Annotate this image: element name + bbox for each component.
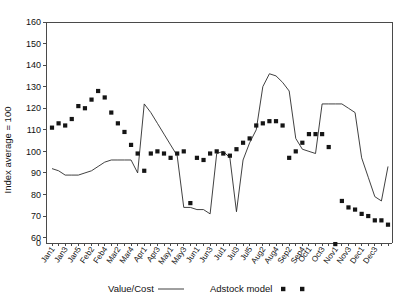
data-marker [221,151,225,155]
data-marker [320,132,324,136]
data-marker [327,145,331,149]
y-axis-tick-label: 150 [26,39,41,49]
legend-label-adstock: Adstock model [210,283,272,294]
data-marker [83,106,87,110]
data-marker [248,136,252,140]
data-marker [280,123,284,127]
data-marker [294,149,298,153]
data-marker [307,132,311,136]
data-marker [215,149,219,153]
data-marker [155,149,159,153]
y-axis-tick-label: 120 [26,103,41,113]
data-marker [234,147,238,151]
data-marker [96,89,100,93]
data-marker [162,151,166,155]
y-axis-title: Index average = 100 [2,107,13,194]
data-marker [208,151,212,155]
y-axis-tick-label: 140 [26,60,41,70]
y-axis-zero-label: 0 [36,238,41,248]
y-axis-tick-label: 70 [31,211,41,221]
data-marker [373,218,377,222]
data-marker [353,207,357,211]
data-marker [313,132,317,136]
chart-series [50,74,390,246]
data-marker [175,151,179,155]
data-marker [333,242,337,246]
data-marker [254,123,258,127]
data-marker [201,158,205,162]
x-axis-tick-label: Jul1 [212,245,228,263]
chart-plot: 607080901001101201301401501600 Jan1Jan3J… [0,0,410,305]
series-line-value-cost [52,74,388,214]
data-marker [182,149,186,153]
data-marker [50,126,54,130]
x-axis-tick-label: Mar4 [118,245,136,266]
data-marker [274,119,278,123]
data-marker [366,214,370,218]
data-marker [360,212,364,216]
data-marker [149,151,153,155]
data-marker [122,130,126,134]
data-marker [56,121,60,125]
y-axis-tick-label: 160 [26,17,41,27]
data-marker [195,156,199,160]
legend-swatch-square-2 [300,287,304,291]
data-marker [241,141,245,145]
data-marker [386,223,390,227]
y-axis-tick-label: 90 [31,168,41,178]
data-marker [379,218,383,222]
data-marker [142,169,146,173]
data-marker [109,110,113,114]
y-axis-tick-label: 110 [27,125,41,135]
data-marker [103,95,107,99]
legend-label-value-cost: Value/Cost [108,283,154,294]
data-marker [228,154,232,158]
data-marker [188,201,192,205]
data-marker [287,156,291,160]
data-marker [136,151,140,155]
y-axis-tick-label: 80 [31,190,41,200]
data-marker [340,199,344,203]
data-marker [89,98,93,102]
data-marker [346,205,350,209]
data-marker [129,143,133,147]
chart-container: 607080901001101201301401501600 Jan1Jan3J… [0,0,410,305]
data-marker [116,121,120,125]
y-axis: 607080901001101201301401501600 [26,17,46,248]
y-axis-tick-label: 130 [26,82,41,92]
x-axis-tick-label: Jun3 [197,245,215,265]
data-marker [70,117,74,121]
data-marker [168,156,172,160]
chart-legend: Value/CostAdstock model [108,283,304,294]
data-marker [63,123,67,127]
series-markers-adstock [50,89,390,246]
x-axis: Jan1Jan3Jan5Feb2Feb4Mar2Mar4Apr1Apr3May1… [39,22,392,266]
x-axis-tick-label: Jul3 [225,245,241,263]
data-marker [76,104,80,108]
y-axis-tick-label: 100 [26,147,41,157]
data-marker [261,121,265,125]
legend-swatch-square [281,287,285,291]
data-marker [300,141,304,145]
x-axis-tick-label: Dec3 [361,245,379,266]
data-marker [267,119,271,123]
